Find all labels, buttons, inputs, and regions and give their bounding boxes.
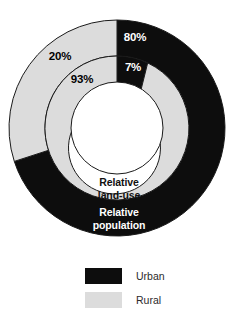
legend-label-urban: Urban <box>136 270 165 282</box>
outer-ring-title-line2: population <box>93 219 146 231</box>
legend-item-rural[interactable]: Rural <box>85 292 161 308</box>
legend-swatch-urban <box>85 268 122 284</box>
chart-legend: Urban Rural <box>85 268 165 308</box>
inner-ring-title-line2: land-use <box>98 189 141 201</box>
legend-item-urban[interactable]: Urban <box>85 268 165 284</box>
legend-swatch-rural <box>85 292 122 308</box>
label-inner-rural-percent: 93% <box>71 73 93 85</box>
label-outer-urban-percent: 80% <box>124 31 146 43</box>
nested-donut-chart: 80% 20% 7% 93% Relative land-use Relativ… <box>0 0 239 324</box>
legend-label-rural: Rural <box>136 294 161 306</box>
donut-center-hole <box>71 82 163 174</box>
donut-chart-svg: 80% 20% 7% 93% Relative land-use Relativ… <box>0 0 239 324</box>
label-inner-urban-percent: 7% <box>125 61 141 73</box>
outer-ring-title-line1: Relative <box>99 206 139 218</box>
inner-ring-title-line1: Relative <box>99 176 139 188</box>
label-outer-rural-percent: 20% <box>49 50 71 62</box>
